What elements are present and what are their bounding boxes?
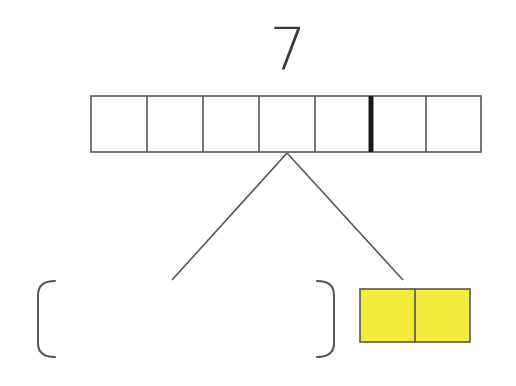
blank-answer-bracket[interactable]: [38, 281, 334, 357]
number-bond-diagram: 7: [0, 0, 516, 386]
branch-lines: [172, 153, 403, 280]
whole-strip: [91, 96, 481, 152]
yellow-part-boxes: [360, 289, 470, 342]
